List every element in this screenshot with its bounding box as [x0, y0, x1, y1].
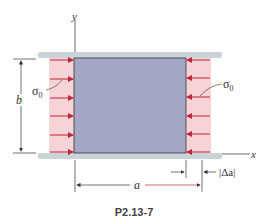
y-axis-label: y — [71, 10, 77, 22]
delta-a-label: |Δa| — [219, 166, 235, 178]
b-label: b — [16, 93, 22, 107]
figure-caption: P2.13-7 — [115, 206, 154, 218]
left-sigma-label: σ0 — [32, 84, 42, 100]
right-stress-region — [186, 58, 211, 153]
left-stress-region — [49, 58, 74, 153]
right-sigma-label: σ0 — [223, 77, 233, 93]
delta-a-dimension — [171, 160, 216, 178]
block — [74, 58, 186, 153]
bottom-plate — [38, 153, 222, 159]
diagram-canvas: y x b a |Δa| σ0 σ0 P2.13-7 — [0, 0, 269, 224]
a-label: a — [134, 178, 140, 192]
top-plate — [38, 52, 222, 58]
x-axis-label: x — [250, 148, 256, 160]
